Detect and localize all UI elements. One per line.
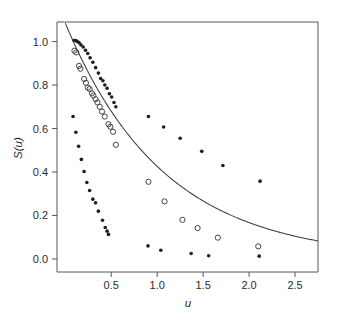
x-tick-label: 1.5 [195,279,210,291]
filled-circle-point [146,244,150,248]
filled-circle-point [94,201,98,205]
filled-circle-point [91,60,95,64]
y-axis-title-group: S(u) [12,137,24,159]
filled-circle-point [258,179,262,183]
filled-circle-point [108,92,112,96]
y-tick-label: 0.4 [33,166,48,178]
filled-circle-point [103,226,107,230]
plot-frame [57,22,318,272]
open-circle-point [102,114,107,119]
filled-circle-point [88,189,92,193]
y-tick-label: 1.0 [33,36,48,48]
x-axis-tick-labels: 0.51.01.52.02.5 [104,279,303,291]
filled-circle-point [103,83,107,87]
open-circle-point [110,129,115,134]
filled-circle-point [80,158,84,162]
series-layer [71,39,262,258]
y-axis-ticks [52,42,57,259]
filled-circle-point [71,115,75,119]
scatter-plot: 0.51.01.52.02.5 0.00.20.40.60.81.0 u S(u… [0,0,341,320]
filled-circle-point [101,79,105,83]
filled-circle-point [207,254,211,258]
x-axis-title: u [185,297,192,309]
filled-circle-point [110,95,114,99]
filled-circle-point [88,56,92,60]
filled-circle-point [94,66,98,70]
filled-circle-point [86,52,90,56]
filled-circle-point [97,71,101,75]
open-circle-point [256,244,261,249]
filled-circle-point [101,218,105,222]
open-circle-point [99,109,104,114]
filled-circle-point [107,233,111,237]
filled-circle-point [200,150,204,154]
data-series [146,244,261,258]
figure-container: 0.51.01.52.02.5 0.00.20.40.60.81.0 u S(u… [0,0,341,320]
data-series [71,115,110,236]
filled-circle-point [221,164,225,168]
filled-circle-point [114,105,118,109]
y-axis-title: S(u) [12,137,24,159]
filled-circle-point [189,252,193,256]
y-tick-label: 0.0 [33,253,48,265]
y-tick-label: 0.2 [33,209,48,221]
x-axis-ticks [111,272,295,277]
filled-circle-point [147,115,151,119]
filled-circle-point [257,254,261,258]
fitted-exponential-curve [65,23,318,241]
filled-circle-point [178,137,182,141]
x-tick-label: 2.0 [241,279,256,291]
filled-circle-point [105,87,109,91]
filled-circle-point [84,48,88,52]
filled-circle-point [74,130,78,134]
y-axis-tick-labels: 0.00.20.40.60.81.0 [33,36,48,265]
filled-circle-point [81,45,85,49]
filled-circle-point [85,181,89,185]
filled-circle-point [82,170,86,174]
x-tick-label: 0.5 [104,279,119,291]
filled-circle-point [91,197,95,201]
open-circle-point [113,142,118,147]
filled-circle-point [159,248,163,252]
y-tick-label: 0.6 [33,123,48,135]
open-circle-point [146,179,151,184]
filled-circle-point [105,229,109,233]
y-tick-label: 0.8 [33,79,48,91]
open-circle-point [215,235,220,240]
open-circle-point [162,199,167,204]
filled-circle-point [162,125,166,129]
open-circle-point [195,225,200,230]
open-circle-point [180,217,185,222]
filled-circle-point [77,145,81,149]
filled-circle-point [97,209,101,213]
filled-circle-point [112,101,116,105]
x-tick-label: 2.5 [287,279,302,291]
x-tick-label: 1.0 [150,279,165,291]
